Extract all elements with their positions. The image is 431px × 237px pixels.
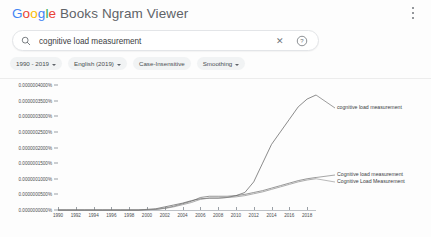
filter-chip-row: 1990 - 2019 English (2019) Case-Insensit…: [10, 57, 245, 70]
chart-series-label[interactable]: Cognitive Load Measurement: [337, 178, 405, 184]
chip-corpus-label: English (2019): [74, 57, 114, 70]
search-bar[interactable]: ✕ ?: [12, 30, 319, 51]
series-leader-line: [316, 179, 335, 182]
chip-case-insensitive-label: Case-Insensitive: [139, 57, 185, 70]
close-icon[interactable]: ✕: [274, 36, 285, 47]
chip-date-range-label: 1990 - 2019: [16, 57, 49, 70]
chip-corpus[interactable]: English (2019): [68, 57, 127, 70]
header-divider: [0, 78, 431, 79]
series-leader-line: [316, 95, 335, 108]
chart-series-line[interactable]: [58, 178, 316, 211]
ngram-chart: 0.0000004000%0.0000003500%0.0000003000%0…: [0, 82, 431, 232]
page-title-rest: Books Ngram Viewer: [56, 6, 188, 21]
chip-smoothing-label: Smoothing: [203, 57, 233, 70]
chevron-down-icon: [235, 64, 239, 66]
kebab-menu-icon[interactable]: [407, 6, 419, 20]
chip-date-range[interactable]: 1990 - 2019: [10, 57, 62, 70]
chart-series-line[interactable]: [58, 95, 316, 210]
search-icon: [21, 36, 31, 46]
chart-series-label[interactable]: Cognitive load measurement: [337, 171, 403, 177]
chevron-down-icon: [117, 64, 121, 66]
series-leader-line: [316, 175, 335, 178]
app-header: Google Books Ngram Viewer: [0, 0, 431, 26]
chart-series-label[interactable]: cognitive load measurement: [337, 104, 402, 110]
svg-text:?: ?: [300, 38, 304, 44]
chip-case-insensitive[interactable]: Case-Insensitive: [133, 57, 191, 70]
search-input[interactable]: [39, 31, 279, 52]
page-title: Google Books Ngram Viewer: [12, 6, 188, 21]
chip-smoothing[interactable]: Smoothing: [197, 57, 246, 70]
help-circle-icon[interactable]: ?: [296, 35, 308, 47]
chart-series-line[interactable]: [58, 179, 316, 210]
chevron-down-icon: [52, 64, 56, 66]
ngram-viewer-page: Google Books Ngram Viewer ✕ ? 1990 - 201…: [0, 0, 431, 237]
